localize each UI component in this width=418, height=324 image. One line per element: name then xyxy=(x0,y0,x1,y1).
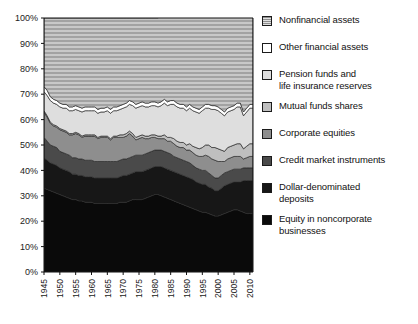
x-tick-label: 1980 xyxy=(150,279,160,298)
y-tick-label: 0% xyxy=(25,267,38,277)
legend-label: Pension funds and life insurance reserve… xyxy=(279,68,372,91)
chart-legend: Nonfinancial assetsOther financial asset… xyxy=(262,14,418,245)
legend-label: Dollar-denominated deposits xyxy=(279,181,360,204)
x-tick-label: 1950 xyxy=(55,279,65,298)
legend-label: Nonfinancial assets xyxy=(279,14,359,26)
x-tick-label: 2010 xyxy=(245,279,255,298)
x-axis-labels: 1945195019551960196519701975198019851990… xyxy=(39,279,255,298)
legend-label: Equity in noncorporate businesses xyxy=(279,213,372,236)
x-tick-label: 2005 xyxy=(229,279,239,298)
y-tick-label: 70% xyxy=(20,89,38,99)
chart-page: 0%10%20%30%40%50%60%70%80%90%100% 194519… xyxy=(0,0,418,324)
legend-swatch-nonfinancial-assets xyxy=(262,16,272,26)
chart-canvas: 0%10%20%30%40%50%60%70%80%90%100% 194519… xyxy=(0,0,262,324)
legend-swatch-mutual-funds-shares xyxy=(262,102,272,112)
y-tick-label: 90% xyxy=(20,39,38,49)
legend-label: Mutual funds shares xyxy=(279,100,363,112)
y-tick-label: 100% xyxy=(15,13,38,23)
x-tick-label: 2000 xyxy=(213,279,223,298)
area-series-group xyxy=(44,0,253,272)
legend-swatch-dollar-denominated-deposits xyxy=(262,183,272,193)
y-tick-label: 10% xyxy=(20,242,38,252)
legend-item-other-financial-assets[interactable]: Other financial assets xyxy=(262,41,418,59)
x-tick-label: 1995 xyxy=(198,279,208,298)
x-tick-label: 1990 xyxy=(182,279,192,298)
y-tick-label: 40% xyxy=(20,166,38,176)
x-tick-label: 1970 xyxy=(118,279,128,298)
legend-swatch-other-financial-assets xyxy=(262,43,272,53)
area-series-8 xyxy=(44,0,253,112)
legend-item-dollar-denominated-deposits[interactable]: Dollar-denominated deposits xyxy=(262,181,418,204)
y-tick-label: 80% xyxy=(20,64,38,74)
legend-swatch-equity-noncorporate xyxy=(262,215,272,225)
legend-item-nonfinancial-assets[interactable]: Nonfinancial assets xyxy=(262,14,418,32)
x-tick-label: 1945 xyxy=(39,279,49,298)
x-tick-label: 1955 xyxy=(71,279,81,298)
legend-item-mutual-funds-shares[interactable]: Mutual funds shares xyxy=(262,100,418,118)
legend-item-credit-market-instruments[interactable]: Credit market instruments xyxy=(262,154,418,172)
legend-label: Other financial assets xyxy=(279,41,368,53)
legend-label: Corporate equities xyxy=(279,127,355,139)
legend-item-pension-funds[interactable]: Pension funds and life insurance reserve… xyxy=(262,68,418,91)
x-tick-label: 1985 xyxy=(166,279,176,298)
legend-swatch-corporate-equities xyxy=(262,129,272,139)
y-tick-label: 20% xyxy=(20,216,38,226)
stacked-area-chart: 0%10%20%30%40%50%60%70%80%90%100% 194519… xyxy=(0,0,262,324)
y-tick-label: 60% xyxy=(20,115,38,125)
y-axis-labels: 0%10%20%30%40%50%60%70%80%90%100% xyxy=(15,13,38,277)
legend-item-equity-noncorporate[interactable]: Equity in noncorporate businesses xyxy=(262,213,418,236)
y-tick-label: 30% xyxy=(20,191,38,201)
x-tick-label: 1975 xyxy=(134,279,144,298)
legend-swatch-pension-funds xyxy=(262,70,272,80)
y-tick-label: 50% xyxy=(20,140,38,150)
x-tick-label: 1965 xyxy=(103,279,113,298)
x-tick-label: 1960 xyxy=(87,279,97,298)
legend-swatch-credit-market-instruments xyxy=(262,156,272,166)
legend-label: Credit market instruments xyxy=(279,154,385,166)
legend-item-corporate-equities[interactable]: Corporate equities xyxy=(262,127,418,145)
